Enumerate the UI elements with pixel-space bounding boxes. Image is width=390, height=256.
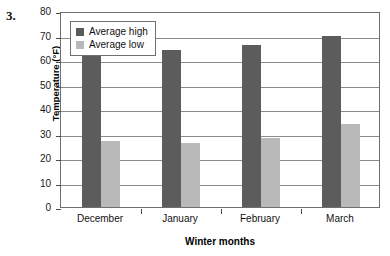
bar-january-average-low (181, 143, 200, 207)
y-tick-label: 30 (27, 130, 51, 140)
legend-swatch-average-low (76, 41, 84, 49)
legend-swatch-average-high (76, 28, 84, 36)
bar-february-average-low (261, 138, 280, 207)
bar-december-average-low (101, 141, 120, 207)
chart-legend: Average high Average low (70, 21, 156, 56)
bar-january-average-high (162, 50, 181, 207)
x-category-label: January (135, 213, 225, 224)
y-tick-label: 80 (27, 7, 51, 17)
y-tick-label: 40 (27, 105, 51, 115)
bar-december-average-high (82, 50, 101, 207)
y-tick-mark (56, 185, 61, 186)
problem-number-label: 3. (6, 8, 16, 24)
bar-march-average-low (341, 124, 360, 207)
y-tick-mark (56, 209, 61, 210)
y-tick-label: 10 (27, 179, 51, 189)
y-tick-mark (56, 136, 61, 137)
y-tick-mark (56, 62, 61, 63)
bar-march-average-high (322, 36, 341, 208)
x-category-label: February (215, 213, 305, 224)
legend-item-average-high: Average high (76, 25, 148, 38)
x-axis-title: Winter months (60, 236, 380, 247)
y-tick-mark (56, 111, 61, 112)
x-category-label: December (55, 213, 145, 224)
y-tick-mark (56, 38, 61, 39)
legend-item-average-low: Average low (76, 38, 148, 51)
legend-label-average-high: Average high (89, 26, 148, 37)
y-axis-title: Temperature (°F) (50, 24, 61, 144)
bar-february-average-high (242, 45, 261, 207)
y-tick-label: 60 (27, 56, 51, 66)
y-tick-mark (56, 87, 61, 88)
y-tick-label: 50 (27, 81, 51, 91)
legend-label-average-low: Average low (89, 39, 144, 50)
y-tick-mark (56, 160, 61, 161)
y-tick-mark (56, 13, 61, 14)
y-tick-label: 0 (27, 203, 51, 213)
y-tick-label: 70 (27, 32, 51, 42)
plot-area: Average high Average low (60, 12, 380, 208)
y-tick-label: 20 (27, 154, 51, 164)
bar-chart-figure: 3. Temperature (°F) Winter months Averag… (0, 0, 390, 256)
x-category-label: March (295, 213, 385, 224)
